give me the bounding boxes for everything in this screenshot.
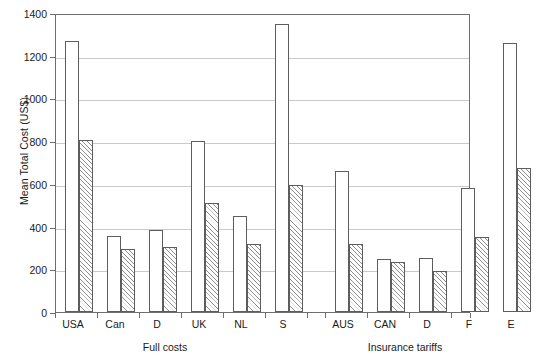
bar-can2-open <box>377 259 391 312</box>
bar-f-hatched <box>475 237 489 312</box>
plot-area <box>55 14 470 313</box>
gridline-600 <box>56 186 469 187</box>
gridline-400 <box>56 229 469 230</box>
bar-usa-hatched <box>79 140 93 312</box>
bar-f-open <box>461 188 475 312</box>
y-tick-label-200: 200 <box>0 265 47 275</box>
bar-s-hatched <box>289 185 303 312</box>
bar-aus-hatched <box>349 244 363 312</box>
gridline-1200 <box>56 58 469 59</box>
gridline-800 <box>56 143 469 144</box>
gridline-1000 <box>56 100 469 101</box>
x-cat-s: S <box>258 318 308 330</box>
bar-s-open <box>275 24 289 312</box>
bar-d2-open <box>419 258 433 312</box>
bar-nl-hatched <box>247 244 261 312</box>
y-tick-label-1000: 1000 <box>0 94 47 104</box>
x-cat-e: E <box>486 318 535 330</box>
bar-can-open <box>107 236 121 312</box>
y-tick-label-600: 600 <box>0 180 47 190</box>
bar-e-open <box>503 43 517 312</box>
bar-d-open <box>149 230 163 312</box>
bar-can2-hatched <box>391 262 405 312</box>
bar-d-hatched <box>163 247 177 312</box>
y-tick-label-1200: 1200 <box>0 52 47 62</box>
group-title-insurance-tariffs: Insurance tariffs <box>335 341 475 353</box>
y-tick-label-1400: 1400 <box>0 9 47 19</box>
bar-e-hatched <box>517 168 531 312</box>
bar-aus-open <box>335 171 349 312</box>
bar-can-hatched <box>121 249 135 312</box>
bar-d2-hatched <box>433 271 447 312</box>
bar-usa-open <box>65 41 79 312</box>
bar-uk-hatched <box>205 203 219 312</box>
y-tick-label-400: 400 <box>0 223 47 233</box>
bar-uk-open <box>191 141 205 312</box>
y-tick-label-800: 800 <box>0 137 47 147</box>
y-tick-label-0: 0 <box>0 308 47 318</box>
group-title-full-costs: Full costs <box>110 341 220 353</box>
bar-nl-open <box>233 216 247 312</box>
